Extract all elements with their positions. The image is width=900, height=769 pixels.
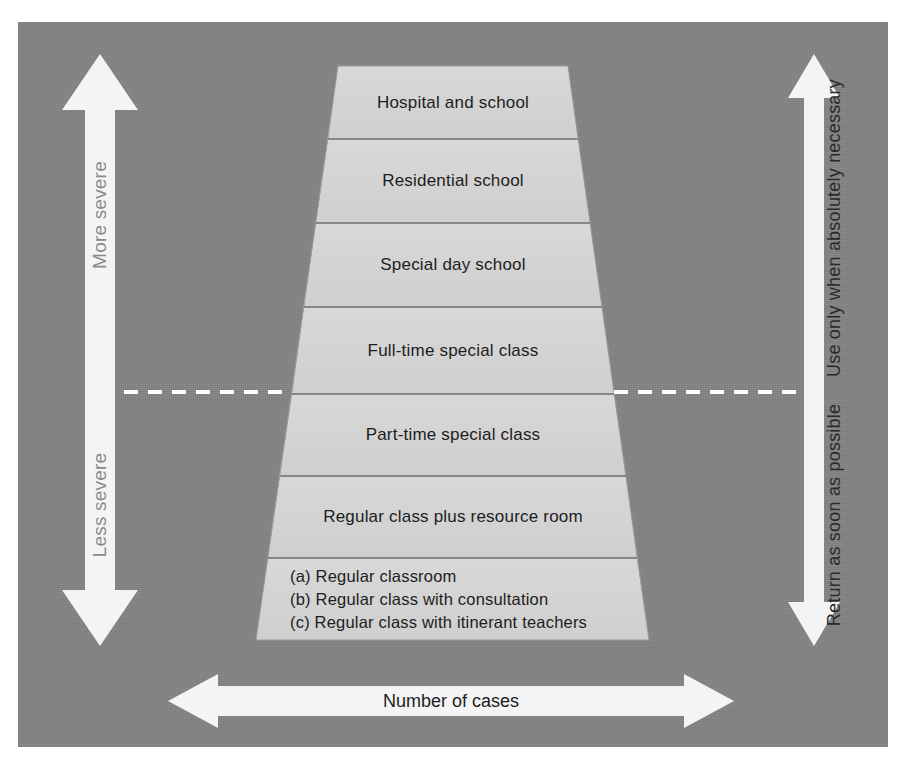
cascade-of-services-figure: Hospital and school Residential school S… [0, 0, 900, 769]
band-label-hospital-and-school: Hospital and school [377, 92, 529, 114]
severity-axis-bottom-label: Less severe [89, 453, 111, 558]
band-label-residential-school: Residential school [382, 170, 524, 192]
band-label-regular-class-options: (a) Regular classroom (b) Regular class … [290, 565, 587, 633]
severity-threshold-dashed-line-right [614, 390, 812, 394]
usage-axis-top-label: Use only when absolutely necessary [824, 79, 845, 377]
band-label-part-time-special-class: Part-time special class [366, 424, 541, 446]
band-label-regular-class-plus-resource-room: Regular class plus resource room [323, 506, 583, 528]
severity-axis-top-label: More severe [89, 161, 111, 269]
cases-axis-label: Number of cases [383, 691, 519, 712]
severity-axis-arrow [58, 52, 142, 648]
band-label-special-day-school: Special day school [380, 254, 525, 276]
band-label-full-time-special-class: Full-time special class [368, 340, 539, 362]
usage-axis-bottom-label: Return as soon as possible [824, 404, 845, 626]
